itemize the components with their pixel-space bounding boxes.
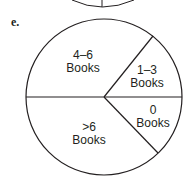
slice-label-0-books: 0 Books bbox=[133, 104, 173, 130]
previous-chart-arc bbox=[72, 0, 134, 7]
slice-label-line2: Books bbox=[58, 62, 108, 75]
slice-label-line2: Books bbox=[127, 77, 167, 90]
slice-label-4-6-books: 4–6 Books bbox=[58, 49, 108, 75]
slice-label-line2: Books bbox=[64, 134, 114, 147]
slice-label-line2: Books bbox=[133, 117, 173, 130]
part-label: e. bbox=[11, 15, 19, 30]
slice-label-1-3-books: 1–3 Books bbox=[127, 64, 167, 90]
pie-chart bbox=[0, 0, 189, 186]
slice-label-more-than-6-books: >6 Books bbox=[64, 121, 114, 147]
